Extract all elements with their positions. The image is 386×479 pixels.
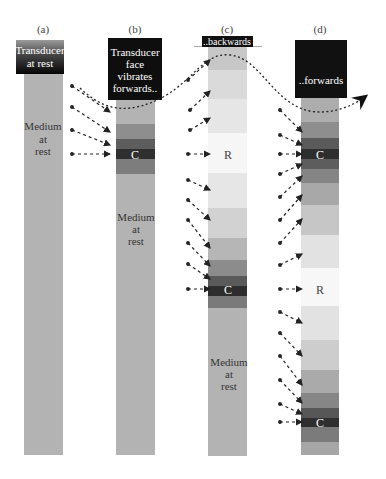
compression-label-c: C	[224, 283, 232, 297]
band	[301, 306, 339, 340]
band	[301, 169, 339, 183]
compression-label-d-bottom: C	[316, 416, 324, 430]
panel-b: Transducer face vibrates forwards.. C Me…	[108, 38, 162, 455]
band	[208, 70, 247, 99]
particle-arrows	[72, 60, 302, 422]
panel-label-b: (b)	[129, 23, 142, 36]
medium-b-line2: at	[132, 223, 140, 235]
band	[301, 122, 339, 138]
band	[208, 260, 247, 276]
medium-c-line3: rest	[221, 380, 237, 392]
band	[301, 340, 339, 370]
band	[301, 98, 339, 122]
transducer-b-line2: face	[126, 58, 144, 70]
transducer-d-text: ..forwards	[299, 74, 344, 86]
ultrasound-wave-diagram: (a) (b) (c) (d) Transducer at rest Mediu…	[0, 0, 386, 479]
transducer-b-line4: forwards..	[113, 82, 158, 94]
transducer-d	[295, 40, 347, 98]
compression-label-d-top: C	[316, 148, 324, 162]
medium-c-line1: Medium	[210, 356, 248, 368]
transducer-c-text: ..backwards	[203, 36, 251, 47]
band	[301, 370, 339, 393]
band	[301, 393, 339, 408]
band	[208, 173, 247, 208]
compression-label-b: C	[131, 148, 139, 162]
band	[208, 208, 247, 238]
medium-b-line1: Medium	[117, 211, 155, 223]
band	[208, 296, 247, 308]
panel-label-c: (c)	[221, 23, 234, 36]
band	[208, 238, 247, 260]
medium-a-line3: rest	[35, 145, 51, 157]
medium-b-line3: rest	[128, 235, 144, 247]
band	[116, 124, 155, 139]
panel-label-a: (a)	[37, 23, 50, 36]
panel-d: ..forwards C R C	[295, 40, 347, 455]
transducer-a-line2: at rest	[27, 57, 54, 69]
rarefaction-label-c: R	[224, 148, 232, 162]
band	[301, 442, 339, 455]
transducer-b-line3: vibrates	[118, 70, 153, 82]
rarefaction-label-d: R	[316, 283, 324, 297]
transducer-b-line1: Transducer	[110, 46, 159, 58]
band	[301, 205, 339, 235]
medium-a-line1: Medium	[24, 120, 62, 132]
band	[301, 183, 339, 205]
transducer-a-line1: Transducer	[15, 44, 64, 56]
medium-a-line2: at	[39, 133, 47, 145]
band	[301, 235, 339, 268]
panel-label-d: (d)	[314, 23, 327, 36]
panel-c: ..backwards R C Medium at rest	[194, 36, 262, 456]
band	[208, 99, 247, 133]
panel-a: Transducer at rest Medium at rest	[15, 40, 64, 455]
medium-c-line2: at	[225, 368, 233, 380]
band	[208, 47, 247, 70]
